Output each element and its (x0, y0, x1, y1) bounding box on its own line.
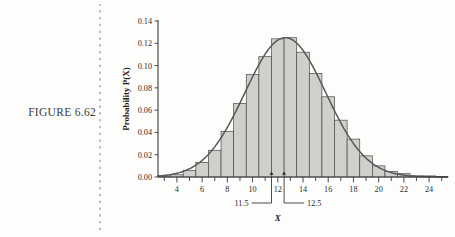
histogram-bar (309, 73, 322, 177)
histogram-bar (297, 52, 310, 177)
bars-group (158, 38, 448, 177)
x-tick-label: 22 (400, 185, 408, 194)
probability-histogram-chart: 0.000.020.040.060.080.100.120.14 4681012… (118, 8, 450, 230)
histogram-bar (246, 74, 259, 177)
histogram-bar (208, 150, 221, 177)
dotted-separator-rule (99, 4, 101, 233)
x-tick-label: 14 (299, 185, 307, 194)
annotation-label-right: 12.5 (307, 199, 321, 208)
y-tick-label: 0.02 (138, 151, 152, 160)
x-tick-label: 16 (324, 185, 332, 194)
x-axis-title: X (274, 213, 282, 223)
x-tick-label: 12 (274, 185, 282, 194)
histogram-bar (335, 120, 348, 177)
figure-page: FIGURE 6.62 0.000.020.040.060.080.100.12… (0, 0, 455, 237)
y-tick-label: 0.08 (138, 84, 152, 93)
y-tick-label: 0.12 (138, 39, 152, 48)
y-tick-labels: 0.000.020.040.060.080.100.120.14 (138, 17, 152, 182)
histogram-bar (322, 97, 335, 177)
figure-number-label: FIGURE 6.62 (12, 106, 96, 118)
histogram-bar (347, 139, 360, 177)
x-tick-label: 6 (200, 185, 204, 194)
histogram-bar (284, 38, 297, 177)
y-tick-label: 0.10 (138, 62, 152, 71)
y-tick-label: 0.06 (138, 106, 152, 115)
histogram-bar (259, 57, 272, 177)
y-axis-title: Probability P(X) (121, 67, 131, 131)
x-tick-label: 20 (375, 185, 383, 194)
x-tick-labels: 4681012141618202224 (175, 185, 433, 194)
x-tick-label: 24 (425, 185, 433, 194)
x-tick-label: 10 (249, 185, 257, 194)
histogram-bar (234, 103, 247, 177)
x-tick-label: 18 (349, 185, 357, 194)
x-tick-label: 8 (225, 185, 229, 194)
histogram-bar (221, 131, 234, 177)
y-tick-label: 0.04 (138, 128, 152, 137)
histogram-bar (271, 39, 284, 177)
y-tick-label: 0.14 (138, 17, 152, 26)
annotation-label-left: 11.5 (234, 199, 248, 208)
x-tick-label: 4 (175, 185, 179, 194)
y-tick-label: 0.00 (138, 173, 152, 182)
chart-canvas: 0.000.020.040.060.080.100.120.14 4681012… (118, 8, 450, 230)
